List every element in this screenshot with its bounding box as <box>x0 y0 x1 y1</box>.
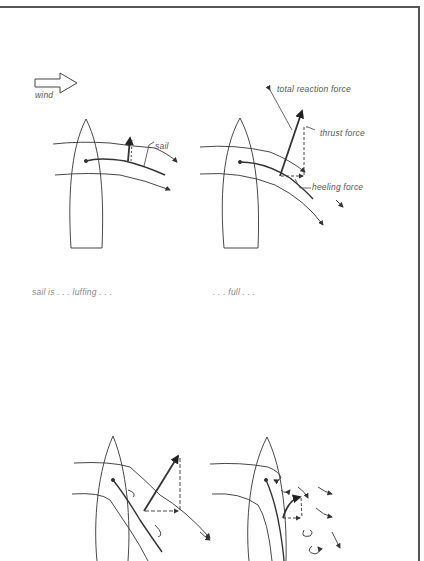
diagram-bottom-left <box>72 436 210 561</box>
wind-label: wind <box>35 90 53 100</box>
diagram-bottom-right <box>200 437 340 561</box>
boat-hull <box>96 436 129 561</box>
diagram-luffing <box>53 119 177 248</box>
boat-hull <box>248 437 286 561</box>
caption-luffing: sail is . . . luffing . . . <box>32 287 112 297</box>
diagram-full <box>200 90 343 248</box>
sail <box>266 480 284 561</box>
sail-label: sail <box>155 141 169 151</box>
thrust-force-label: thrust force <box>320 128 365 138</box>
sail <box>86 159 165 175</box>
sail <box>240 162 313 199</box>
boat-hull <box>222 118 258 248</box>
total-reaction-force-label: total reaction force <box>277 84 351 94</box>
caption-full: . . . full . . . <box>213 287 255 297</box>
heeling-force-label: heeling force <box>312 182 363 192</box>
sailing-forces-diagram <box>0 0 424 561</box>
boat-hull <box>70 119 103 248</box>
